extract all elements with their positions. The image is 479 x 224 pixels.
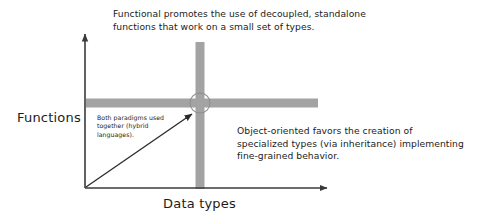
object-oriented-note-text: Object-oriented favors the creation of s…	[237, 125, 464, 163]
vertical-gray-bar	[196, 42, 205, 189]
functional-note-text: Functional promotes the use of decoupled…	[113, 8, 366, 33]
y-axis-label: Functions	[17, 110, 81, 125]
hybrid-languages-note-text: Both paradigms used together (hybrid lan…	[97, 114, 164, 139]
horizontal-gray-bar	[86, 99, 318, 108]
diagram-canvas: Functional promotes the use of decoupled…	[0, 0, 479, 224]
x-axis-label: Data types	[163, 196, 236, 211]
